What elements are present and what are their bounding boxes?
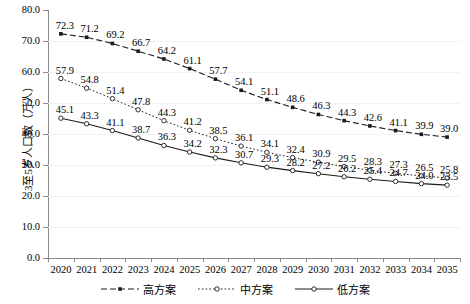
data-point-marker (59, 76, 63, 80)
data-point-marker (162, 118, 166, 122)
data-label: 28.2 (286, 156, 304, 167)
data-point-marker (445, 183, 449, 187)
data-point-marker (136, 49, 140, 53)
data-point-marker (445, 135, 449, 139)
data-point-marker (239, 161, 243, 165)
data-point-marker (188, 67, 192, 71)
y-tick-label: 60.0 (0, 67, 40, 77)
data-label: 43.3 (80, 109, 98, 120)
data-label: 45.1 (56, 104, 74, 115)
legend-item-高方案[interactable]: 高方案 (101, 281, 176, 297)
x-tick-mark (460, 258, 461, 262)
data-label: 41.1 (106, 116, 124, 127)
data-point-marker (368, 177, 372, 181)
x-tick-mark (151, 258, 152, 262)
data-point-marker (420, 133, 424, 137)
data-label: 25.4 (364, 165, 382, 176)
data-label: 32.4 (286, 143, 304, 154)
x-tick-mark (228, 258, 229, 262)
data-point-marker (136, 136, 140, 140)
x-tick-mark (280, 258, 281, 262)
data-point-marker (84, 122, 88, 126)
x-tick-mark (254, 258, 255, 262)
x-tick-label: 2035 (430, 264, 464, 275)
data-label: 44.3 (338, 106, 356, 117)
data-label: 24.0 (415, 169, 433, 180)
legend-label: 低方案 (337, 281, 370, 297)
data-label: 34.2 (183, 137, 201, 148)
data-point-marker (187, 128, 191, 132)
x-tick-mark (383, 258, 384, 262)
data-label: 41.2 (183, 116, 201, 127)
y-tick-label: 30.0 (0, 160, 40, 170)
data-label: 47.8 (132, 95, 150, 106)
data-label: 72.3 (56, 19, 74, 30)
x-tick-mark (434, 258, 435, 262)
x-tick-mark (100, 258, 101, 262)
legend-swatch-icon (295, 284, 333, 294)
data-label: 38.5 (209, 124, 227, 135)
data-label: 57.9 (56, 64, 74, 75)
data-label: 32.3 (209, 143, 227, 154)
data-label: 29.3 (261, 153, 279, 164)
data-label: 36.1 (235, 132, 253, 143)
data-point-marker (368, 124, 372, 128)
data-point-marker (393, 179, 397, 183)
chart-legend: 高方案中方案低方案 (0, 281, 470, 297)
y-tick-label: 50.0 (0, 98, 40, 108)
data-label: 54.1 (235, 76, 253, 87)
y-tick-label: 0.0 (0, 253, 40, 263)
data-point-marker (59, 32, 63, 36)
series-layer (48, 10, 460, 259)
data-label: 51.4 (106, 84, 124, 95)
data-label: 27.2 (312, 159, 330, 170)
data-point-marker (239, 88, 243, 92)
data-label: 36.3 (158, 131, 176, 142)
data-label: 24.7 (389, 167, 407, 178)
y-tick-label: 40.0 (0, 129, 40, 139)
data-label: 30.7 (235, 148, 253, 159)
data-label: 39.9 (415, 120, 433, 131)
data-point-marker (214, 77, 218, 81)
population-projection-chart: 3至5岁人口数（万人） 80.070.060.050.040.030.020.0… (0, 0, 470, 304)
data-point-marker (162, 57, 166, 61)
data-label: 54.8 (80, 74, 98, 85)
x-tick-mark (74, 258, 75, 262)
data-point-marker (316, 171, 320, 175)
data-point-marker (317, 113, 321, 117)
x-tick-mark (409, 258, 410, 262)
x-tick-mark (357, 258, 358, 262)
data-label: 26.2 (338, 162, 356, 173)
data-label: 48.6 (286, 93, 304, 104)
data-point-marker (213, 136, 217, 140)
data-point-marker (162, 143, 166, 147)
data-point-marker (187, 150, 191, 154)
data-label: 41.1 (389, 116, 407, 127)
data-point-marker (110, 128, 114, 132)
legend-item-低方案[interactable]: 低方案 (295, 281, 370, 297)
legend-swatch-icon (198, 284, 236, 294)
legend-swatch-icon (101, 284, 139, 294)
data-label: 57.7 (209, 65, 227, 76)
data-point-marker (419, 181, 423, 185)
legend-item-中方案[interactable]: 中方案 (198, 281, 273, 297)
y-tick-label: 70.0 (0, 36, 40, 46)
y-tick-label: 10.0 (0, 222, 40, 232)
data-point-marker (394, 129, 398, 133)
data-label: 38.7 (132, 124, 150, 135)
data-label: 44.3 (158, 106, 176, 117)
data-label: 64.2 (158, 44, 176, 55)
x-tick-mark (177, 258, 178, 262)
data-point-marker (342, 119, 346, 123)
data-point-marker (290, 168, 294, 172)
data-point-marker (342, 175, 346, 179)
data-label: 71.2 (80, 23, 98, 34)
data-label: 51.1 (261, 85, 279, 96)
data-label: 61.1 (183, 54, 201, 65)
data-label: 66.7 (132, 37, 150, 48)
y-tick-label: 20.0 (0, 191, 40, 201)
y-tick-label: 80.0 (0, 5, 40, 15)
data-point-marker (265, 165, 269, 169)
data-point-marker (136, 108, 140, 112)
data-point-marker (85, 35, 89, 39)
